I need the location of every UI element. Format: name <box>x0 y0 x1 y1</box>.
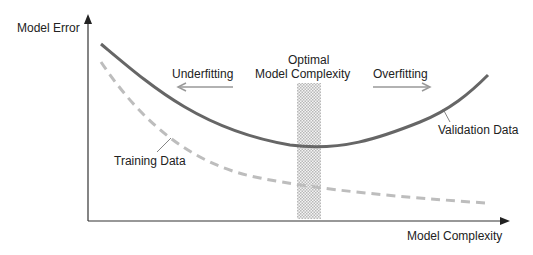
optimal-label-line1: Optimal <box>288 53 329 67</box>
underfitting-arrow-icon <box>178 83 233 91</box>
training-data-curve <box>101 62 485 203</box>
y-axis-label: Model Error <box>17 21 80 35</box>
optimal-complexity-band <box>297 83 321 219</box>
training-leader-line <box>157 138 171 152</box>
overfitting-arrow-icon <box>373 83 430 91</box>
y-axis-arrow-icon <box>84 14 92 24</box>
validation-leader-line <box>443 109 450 122</box>
training-data-label: Training Data <box>114 154 186 168</box>
y-axis <box>84 14 92 221</box>
optimal-label-line2: Model Complexity <box>255 67 350 81</box>
overfitting-label: Overfitting <box>373 67 428 81</box>
x-axis-label: Model Complexity <box>407 229 502 243</box>
validation-data-label: Validation Data <box>438 123 519 137</box>
underfitting-label: Underfitting <box>172 67 233 81</box>
x-axis-arrow-icon <box>500 217 510 225</box>
